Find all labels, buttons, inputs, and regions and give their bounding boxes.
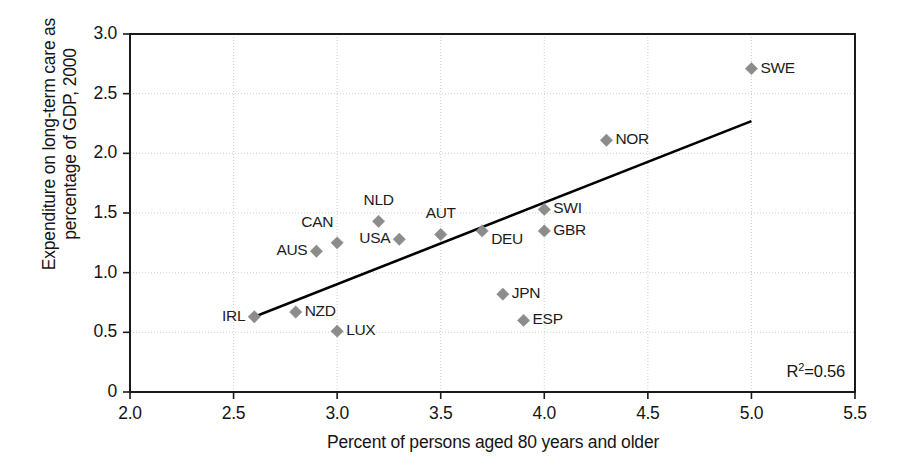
x-tick-label: 2.5 [194, 403, 274, 424]
scatter-plot-figure: Expenditure on long-term care as percent… [0, 0, 899, 469]
x-tick-label: 5.5 [815, 403, 895, 424]
y-tick-label: 2.5 [55, 83, 117, 104]
data-point-label-usa: USA [290, 229, 390, 247]
data-point-label-can: CAN [233, 213, 333, 231]
data-point-label-irl: IRL [145, 307, 245, 325]
data-point-marker[interactable] [331, 325, 343, 337]
data-point-label-nor: NOR [615, 130, 649, 148]
y-tick-label: 2.0 [55, 142, 117, 163]
y-tick-label: 1.5 [55, 202, 117, 223]
data-point-label-swi: SWI [553, 199, 581, 217]
data-point-marker[interactable] [600, 134, 612, 146]
y-tick-label: 0 [55, 381, 117, 402]
x-tick-label: 4.0 [504, 403, 584, 424]
y-tick-label: 1.0 [55, 262, 117, 283]
x-axis-title: Percent of persons aged 80 years and old… [130, 432, 856, 453]
data-point-label-esp: ESP [533, 310, 563, 328]
data-point-group [248, 62, 758, 337]
data-point-marker[interactable] [372, 215, 384, 227]
data-point-label-jpn: JPN [512, 284, 540, 302]
data-point-label-nzd: NZD [305, 302, 336, 320]
data-point-label-lux: LUX [346, 321, 375, 339]
data-point-label-gbr: GBR [553, 221, 586, 239]
data-point-marker[interactable] [745, 62, 757, 74]
data-point-marker[interactable] [248, 311, 260, 323]
data-point-marker[interactable] [435, 228, 447, 240]
data-point-label-swe: SWE [760, 59, 794, 77]
y-axis-title: Expenditure on long-term care as percent… [39, 0, 81, 354]
data-point-label-deu: DEU [491, 230, 523, 248]
x-tick-label: 4.5 [608, 403, 688, 424]
data-point-label-aut: AUT [391, 204, 491, 222]
x-tick-label: 3.5 [401, 403, 481, 424]
y-tick-label: 3.0 [55, 23, 117, 44]
y-tick-label: 0.5 [55, 321, 117, 342]
data-point-marker[interactable] [497, 288, 509, 300]
data-point-marker[interactable] [517, 314, 529, 326]
r-squared-text: R2=0.56 [787, 362, 845, 380]
x-tick-label: 5.0 [711, 403, 791, 424]
x-tick-label: 2.0 [90, 403, 170, 424]
x-tick-label: 3.0 [297, 403, 377, 424]
r-squared-annotation: R2=0.56 [755, 360, 845, 381]
data-point-marker[interactable] [393, 233, 405, 245]
data-point-marker[interactable] [538, 225, 550, 237]
data-point-marker[interactable] [290, 306, 302, 318]
